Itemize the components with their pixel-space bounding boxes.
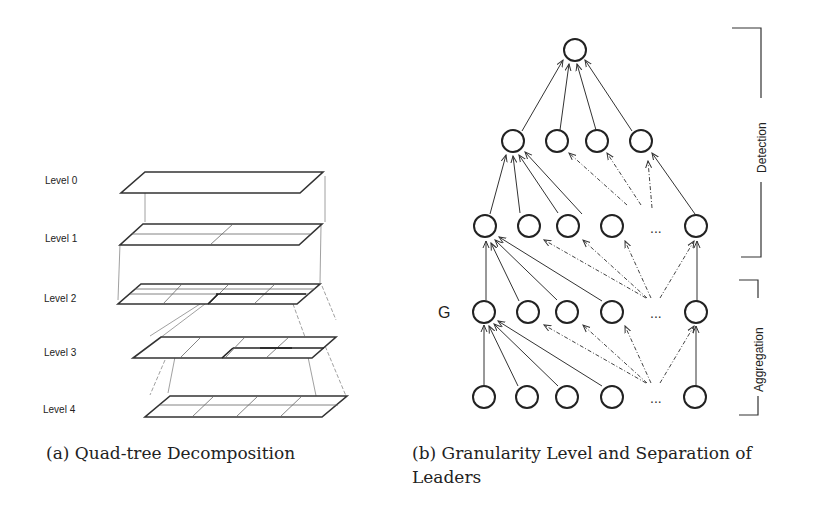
node-root <box>564 39 586 61</box>
aggregation-label: Aggregation <box>752 327 766 392</box>
node-g-n <box>685 301 707 323</box>
node-l2-1 <box>474 215 496 237</box>
ellipsis-g: ... <box>650 305 662 321</box>
node-l4-4 <box>601 386 623 408</box>
node-l2-2 <box>518 215 540 237</box>
node-l4-1 <box>473 386 495 408</box>
level-label-2: Level 2 <box>44 293 77 304</box>
ellipsis-l2: ... <box>650 220 662 236</box>
level-0-plane <box>121 172 323 193</box>
node-l1-1 <box>502 130 524 152</box>
level-label-0: Level 0 <box>45 175 78 186</box>
detection-bracket: Detection <box>732 28 769 257</box>
node-g-2 <box>517 301 539 323</box>
node-g-1 <box>473 301 495 323</box>
level-label-3: Level 3 <box>44 347 77 358</box>
node-l2-4 <box>601 215 623 237</box>
node-l4-2 <box>516 386 538 408</box>
figure-canvas: Level 0 Level 1 Level 2 Level 3 Level 4 <box>0 0 820 440</box>
quadtree-diagram: Level 0 Level 1 Level 2 Level 3 Level 4 <box>43 172 347 417</box>
caption-a: (a) Quad-tree Decomposition <box>46 441 295 465</box>
caption-b: (b) Granularity Level and Separation of … <box>412 441 784 489</box>
granularity-label: G <box>438 304 450 321</box>
node-l2-3 <box>557 215 579 237</box>
detection-label: Detection <box>755 122 769 173</box>
node-l1-4 <box>630 130 652 152</box>
granularity-diagram: ... G ... ... Detection Aggregation <box>438 28 769 415</box>
node-l4-3 <box>556 386 578 408</box>
aggregation-bracket: Aggregation <box>739 280 766 415</box>
node-g-3 <box>556 301 578 323</box>
level-label-1: Level 1 <box>45 233 78 244</box>
node-l1-3 <box>586 130 608 152</box>
node-l4-n <box>684 386 706 408</box>
ellipsis-l4: ... <box>650 390 662 406</box>
node-l1-2 <box>546 130 568 152</box>
level-label-4: Level 4 <box>43 404 76 415</box>
node-g-4 <box>601 301 623 323</box>
level-4-plane <box>145 396 347 417</box>
node-l2-n <box>685 215 707 237</box>
